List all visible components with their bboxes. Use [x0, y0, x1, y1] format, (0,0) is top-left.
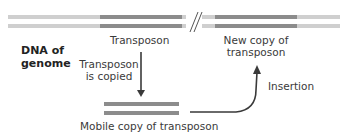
break-mark-icon	[186, 12, 202, 32]
genome-label: DNA of genome	[21, 44, 71, 70]
mobile-copy-label: Mobile copy of transposon	[80, 120, 218, 132]
new-copy-segment	[215, 15, 297, 19]
insertion-label: Insertion	[268, 80, 314, 92]
insertion-arrow-icon	[190, 65, 261, 112]
mobile-copy-dna	[104, 102, 179, 115]
transposon-label: Transposon	[110, 34, 169, 46]
new-copy-line2: transposon	[222, 46, 290, 58]
copied-line2: is copied	[78, 70, 140, 82]
copied-label: Transposon is copied	[78, 58, 140, 82]
new-copy-label: New copy of transposon	[222, 34, 290, 58]
genome-label-line1: DNA of	[21, 44, 71, 57]
genome-dna	[8, 15, 340, 28]
new-copy-line1: New copy of	[222, 34, 290, 46]
genome-label-line2: genome	[21, 57, 71, 70]
copied-line1: Transposon	[78, 58, 140, 70]
original-transposon-segment	[100, 15, 182, 19]
